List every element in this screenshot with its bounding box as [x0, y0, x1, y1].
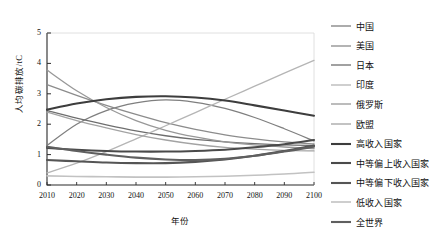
legend-item[interactable]: 中国	[330, 17, 374, 35]
legend-item[interactable]: 美国	[330, 37, 374, 55]
legend-line-icon	[330, 60, 352, 70]
plot-area: 人均碳排放/tC 年份 012345 201020202030204020502…	[0, 0, 330, 238]
legend-line-icon	[330, 217, 352, 227]
x-tick-label: 2060	[180, 191, 210, 200]
legend-line-icon	[330, 99, 352, 109]
y-tick-label: 1	[25, 150, 41, 159]
series-line-1	[47, 85, 314, 144]
chart-figure: 人均碳排放/tC 年份 012345 201020202030204020502…	[0, 0, 439, 238]
legend-label: 全世界	[356, 216, 384, 229]
chart-legend: 中国美国日本印度俄罗斯欧盟高收入国家中等偏上收入国家中等偏下收入国家低收入国家全…	[330, 8, 439, 234]
y-tick-label: 0	[25, 180, 41, 189]
x-tick-label: 2100	[299, 191, 329, 200]
y-tick-label: 5	[25, 28, 41, 37]
x-tick-label: 2040	[121, 191, 151, 200]
legend-item[interactable]: 中等偏下收入国家	[330, 174, 430, 192]
legend-line-icon	[330, 178, 352, 188]
legend-item[interactable]: 欧盟	[330, 115, 374, 133]
legend-label: 美国	[356, 39, 374, 52]
legend-line-icon	[330, 197, 352, 207]
legend-item[interactable]: 俄罗斯	[330, 95, 384, 113]
y-tick-label: 4	[25, 58, 41, 67]
legend-item[interactable]: 印度	[330, 76, 374, 94]
x-tick-label: 2050	[151, 191, 181, 200]
x-tick-label: 2020	[62, 191, 92, 200]
legend-label: 俄罗斯	[356, 98, 384, 111]
series-line-9	[47, 172, 314, 177]
series-line-3	[47, 60, 314, 172]
legend-line-icon	[330, 119, 352, 129]
x-tick-label: 2080	[240, 191, 270, 200]
legend-label: 中国	[356, 20, 374, 33]
legend-item[interactable]: 中等偏上收入国家	[330, 154, 430, 172]
x-tick-label: 2090	[269, 191, 299, 200]
legend-label: 日本	[356, 59, 374, 72]
legend-item[interactable]: 低收入国家	[330, 193, 402, 211]
chart-canvas	[0, 0, 330, 238]
legend-line-icon	[330, 139, 352, 149]
x-tick-label: 2030	[91, 191, 121, 200]
legend-label: 印度	[356, 78, 374, 91]
legend-line-icon	[330, 158, 352, 168]
legend-label: 高收入国家	[356, 137, 402, 150]
y-tick-label: 3	[25, 89, 41, 98]
legend-line-icon	[330, 80, 352, 90]
x-axis-title: 年份	[47, 214, 314, 226]
series-line-10	[47, 147, 314, 160]
legend-item[interactable]: 全世界	[330, 213, 384, 231]
legend-label: 中等偏上收入国家	[356, 157, 430, 170]
legend-line-icon	[330, 41, 352, 51]
chart-series-layer	[47, 60, 314, 177]
legend-item[interactable]: 高收入国家	[330, 135, 402, 153]
legend-label: 中等偏下收入国家	[356, 176, 430, 189]
y-tick-label: 2	[25, 119, 41, 128]
legend-label: 低收入国家	[356, 196, 402, 209]
x-tick-label: 2010	[32, 191, 62, 200]
y-axis-title: 人均碳排放/tC	[12, 36, 24, 132]
x-tick-label: 2070	[210, 191, 240, 200]
legend-line-icon	[330, 21, 352, 31]
legend-item[interactable]: 日本	[330, 56, 374, 74]
legend-label: 欧盟	[356, 118, 374, 131]
